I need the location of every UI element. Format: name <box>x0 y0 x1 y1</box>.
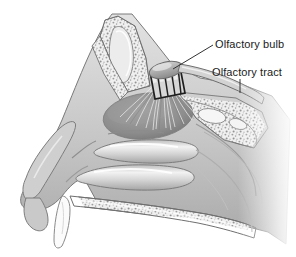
label-olfactory-tract: Olfactory tract <box>212 66 282 78</box>
olfactory-system-figure: Olfactory bulb Olfactory tract <box>0 0 296 257</box>
label-olfactory-bulb: Olfactory bulb <box>215 38 284 50</box>
